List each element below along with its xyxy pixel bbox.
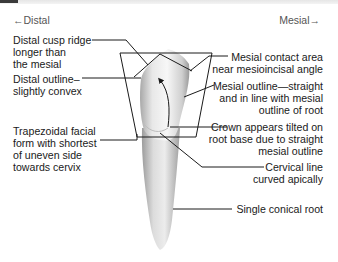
label-line: curved apically [253,173,323,185]
label-line: Cervical line [253,161,323,173]
label-trapezoidal-form: Trapezoidal facial form with shortest of… [13,125,97,173]
label-line: root base due to straight [209,133,323,145]
label-line: of uneven side [13,149,97,161]
label-line: Mesial contact area [212,51,323,63]
label-line: towards cervix [13,161,97,173]
label-line: Distal cusp ridge [13,34,91,46]
label-line: Trapezoidal facial [13,125,97,137]
label-distal-outline: Distal outline– slightly convex [13,73,82,97]
label-line: slightly convex [13,85,82,97]
label-line: near mesioincisal angle [212,63,323,75]
label-line: form with shortest [13,137,97,149]
label-line: longer than [13,46,91,58]
label-line: the mesial [13,58,91,70]
label-line: Mesial outline—straight [213,80,323,92]
label-cervical-line: Cervical line curved apically [253,161,323,185]
label-line: Crown appears tilted on [209,121,323,133]
label-line: mesial outline [209,145,323,157]
label-line: and in line with mesial [213,92,323,104]
label-line: Single conical root [236,203,323,215]
label-crown-tilted: Crown appears tilted on root base due to… [209,121,323,157]
label-mesial-outline: Mesial outline—straight and in line with… [213,80,323,116]
label-conical-root: Single conical root [236,203,323,215]
label-line: Distal outline– [13,73,82,85]
label-distal-cusp-ridge: Distal cusp ridge longer than the mesial [13,34,91,70]
label-line: outline of root [213,104,323,116]
label-mesial-contact-area: Mesial contact area near mesioincisal an… [212,51,323,75]
tooth-root [142,128,180,250]
